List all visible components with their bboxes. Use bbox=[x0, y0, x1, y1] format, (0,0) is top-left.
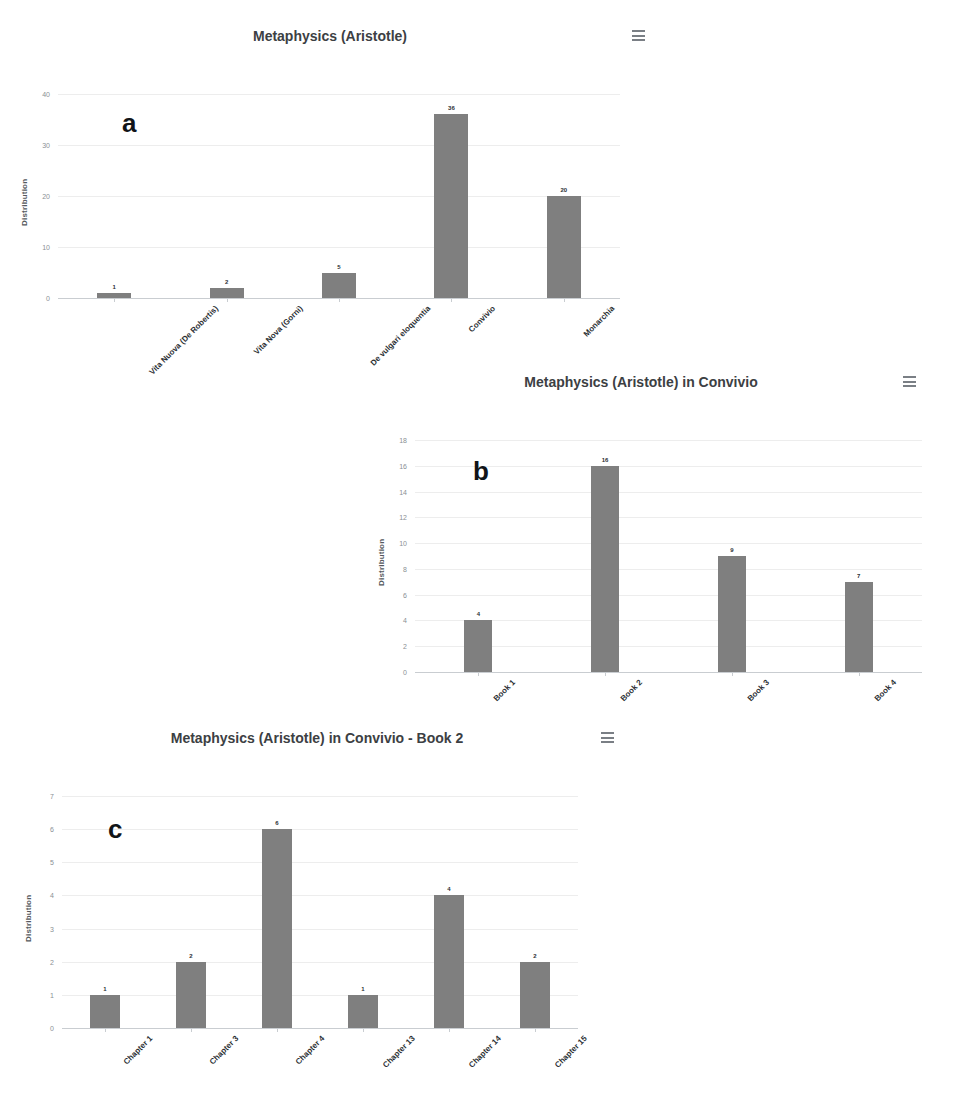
grid-line bbox=[58, 94, 620, 95]
figure-page: { "figure": { "panels": [ { "letter": "a… bbox=[0, 0, 957, 1101]
x-axis-tick-mark bbox=[859, 672, 860, 676]
bar-value-label: 7 bbox=[857, 573, 860, 579]
x-axis-tick-label: Chapter 14 bbox=[467, 1034, 503, 1070]
grid-line bbox=[58, 145, 620, 146]
menu-line bbox=[903, 376, 916, 378]
bar[interactable] bbox=[434, 895, 464, 1028]
y-axis-tick-label: 4 bbox=[28, 892, 54, 899]
grid-line bbox=[415, 466, 922, 467]
menu-line bbox=[903, 381, 916, 383]
bar[interactable] bbox=[322, 273, 356, 299]
x-axis-tick-mark bbox=[605, 672, 606, 676]
hamburger-menu-icon-a[interactable] bbox=[632, 30, 645, 41]
panel-letter-b: b bbox=[473, 456, 489, 487]
grid-line bbox=[62, 895, 578, 896]
x-axis-tick-mark bbox=[277, 1028, 278, 1032]
chart-b-plot: Distribution0246810121416184Book 116Book… bbox=[355, 424, 957, 744]
y-axis-tick-label: 20 bbox=[24, 193, 50, 200]
x-axis-tick-label: Book 3 bbox=[746, 678, 771, 703]
bar-value-label: 4 bbox=[447, 886, 450, 892]
bar[interactable] bbox=[464, 620, 492, 672]
y-axis-tick-label: 2 bbox=[28, 958, 54, 965]
bar[interactable] bbox=[210, 288, 244, 298]
grid-line bbox=[62, 995, 578, 996]
bar-value-label: 20 bbox=[560, 187, 567, 193]
grid-line bbox=[62, 796, 578, 797]
y-axis-tick-label: 6 bbox=[381, 591, 407, 598]
chart-panel-b: Metaphysics (Aristotle) in Convivio Dist… bbox=[355, 372, 957, 722]
bar[interactable] bbox=[176, 962, 206, 1028]
x-axis-tick-label: Chapter 13 bbox=[381, 1034, 417, 1070]
bar-value-label: 1 bbox=[361, 986, 364, 992]
grid-line bbox=[415, 569, 922, 570]
bar-value-label: 2 bbox=[533, 953, 536, 959]
grid-line bbox=[415, 440, 922, 441]
x-axis-tick-mark bbox=[114, 298, 115, 302]
y-axis-tick-label: 7 bbox=[28, 793, 54, 800]
x-axis-tick-mark bbox=[227, 298, 228, 302]
bar[interactable] bbox=[520, 962, 550, 1028]
x-axis-tick-label: Convivio bbox=[467, 304, 497, 334]
panel-letter-a: a bbox=[122, 108, 136, 139]
x-axis-line bbox=[62, 1028, 578, 1029]
bar[interactable] bbox=[845, 582, 873, 672]
bar-value-label: 2 bbox=[189, 953, 192, 959]
y-axis-tick-label: 8 bbox=[381, 565, 407, 572]
bar-value-label: 2 bbox=[225, 279, 228, 285]
x-axis-line bbox=[415, 672, 922, 673]
y-axis-tick-label: 10 bbox=[381, 540, 407, 547]
hamburger-menu-icon-b[interactable] bbox=[903, 376, 916, 387]
chart-c-header: Metaphysics (Aristotle) in Convivio - Bo… bbox=[0, 728, 640, 754]
y-axis-tick-label: 12 bbox=[381, 514, 407, 521]
grid-line bbox=[415, 517, 922, 518]
x-axis-tick-label: Book 4 bbox=[872, 678, 897, 703]
menu-line bbox=[601, 741, 614, 743]
bar[interactable] bbox=[547, 196, 581, 298]
y-axis-tick-label: 4 bbox=[381, 617, 407, 624]
bar[interactable] bbox=[591, 466, 619, 672]
y-axis-tick-label: 3 bbox=[28, 925, 54, 932]
x-axis-tick-mark bbox=[732, 672, 733, 676]
y-axis-tick-label: 14 bbox=[381, 488, 407, 495]
x-axis-tick-label: Chapter 4 bbox=[294, 1034, 326, 1066]
bar-value-label: 6 bbox=[275, 820, 278, 826]
chart-a-plot: Distribution0102030401Vita Nuova (De Rob… bbox=[0, 78, 690, 398]
grid-line bbox=[415, 543, 922, 544]
bar-value-label: 4 bbox=[477, 611, 480, 617]
bar[interactable] bbox=[434, 114, 468, 298]
y-axis-tick-label: 5 bbox=[28, 859, 54, 866]
x-axis-tick-mark bbox=[478, 672, 479, 676]
bar-value-label: 16 bbox=[602, 457, 609, 463]
hamburger-menu-icon-c[interactable] bbox=[601, 732, 614, 743]
y-axis-tick-label: 0 bbox=[28, 1025, 54, 1032]
bar[interactable] bbox=[348, 995, 378, 1028]
chart-c-title: Metaphysics (Aristotle) in Convivio - Bo… bbox=[0, 730, 640, 746]
x-axis-tick-mark bbox=[105, 1028, 106, 1032]
x-axis-tick-mark bbox=[339, 298, 340, 302]
menu-line bbox=[903, 385, 916, 387]
chart-panel-c: Metaphysics (Aristotle) in Convivio - Bo… bbox=[0, 728, 640, 1098]
x-axis-tick-mark bbox=[449, 1028, 450, 1032]
x-axis-tick-mark bbox=[191, 1028, 192, 1032]
bar-value-label: 1 bbox=[113, 284, 116, 290]
x-axis-tick-label: Chapter 15 bbox=[553, 1034, 589, 1070]
bar[interactable] bbox=[90, 995, 120, 1028]
x-axis-tick-label: Book 1 bbox=[492, 678, 517, 703]
chart-a-title: Metaphysics (Aristotle) bbox=[0, 28, 690, 44]
grid-line bbox=[62, 862, 578, 863]
x-axis-tick-label: De vulgari eloquentia bbox=[369, 304, 433, 368]
y-axis-tick-label: 18 bbox=[381, 437, 407, 444]
bar-value-label: 36 bbox=[448, 105, 455, 111]
bar[interactable] bbox=[718, 556, 746, 672]
y-axis-tick-label: 10 bbox=[24, 244, 50, 251]
x-axis-tick-label: Vita Nuova (De Robertis) bbox=[148, 304, 221, 377]
menu-line bbox=[632, 39, 645, 41]
bar-value-label: 9 bbox=[730, 547, 733, 553]
grid-line bbox=[62, 829, 578, 830]
panel-letter-c: c bbox=[108, 814, 122, 845]
x-axis-tick-mark bbox=[535, 1028, 536, 1032]
bar[interactable] bbox=[262, 829, 292, 1028]
y-axis-tick-label: 30 bbox=[24, 142, 50, 149]
grid-line bbox=[415, 492, 922, 493]
y-axis-tick-label: 16 bbox=[381, 462, 407, 469]
